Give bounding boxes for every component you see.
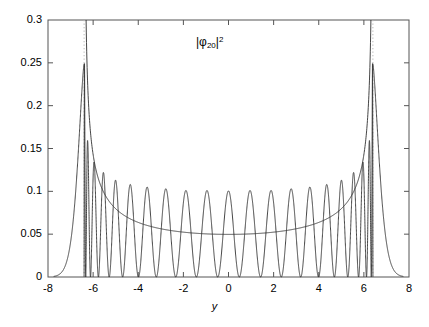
- x-tick-label: 4: [304, 283, 334, 294]
- x-tick-label: -8: [33, 283, 63, 294]
- y-tick-label: 0.15: [2, 143, 42, 154]
- x-tick-label: -4: [123, 283, 153, 294]
- x-tick-label: 2: [259, 283, 289, 294]
- figure-container: 00.050.10.150.20.250.3 -8-6-4-202468 y |…: [0, 0, 429, 327]
- x-axis-title: y: [0, 301, 429, 312]
- series-annotation-superscript: 2: [219, 35, 223, 44]
- y-tick-label: 0: [2, 271, 42, 282]
- x-tick-label: -6: [78, 283, 108, 294]
- x-tick-label: 6: [349, 283, 379, 294]
- plot-frame: [48, 20, 409, 277]
- series-annotation-base: |φ: [196, 35, 207, 49]
- y-tick-label: 0.2: [2, 100, 42, 111]
- y-tick-label: 0.1: [2, 185, 42, 196]
- y-tick-label: 0.25: [2, 57, 42, 68]
- x-tick-label: -2: [168, 283, 198, 294]
- series-annotation-subscript: 20: [207, 41, 216, 50]
- y-tick-label: 0.3: [2, 14, 42, 25]
- y-tick-label: 0.05: [2, 228, 42, 239]
- series-annotation-label: |φ20|2: [196, 36, 223, 50]
- x-tick-label: 0: [214, 283, 244, 294]
- x-tick-label: 8: [394, 283, 424, 294]
